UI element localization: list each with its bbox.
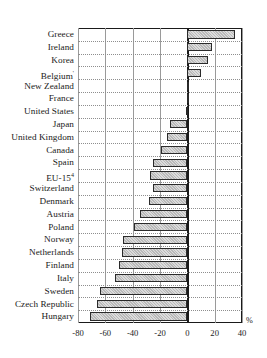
- footnote-marker: 4: [71, 172, 74, 178]
- gridline-horizontal: [78, 118, 242, 119]
- gridline-horizontal: [78, 233, 242, 234]
- bar: [153, 184, 187, 192]
- gridline-horizontal: [78, 310, 242, 311]
- bar: [123, 236, 187, 244]
- bar: [150, 171, 187, 179]
- gridline-horizontal: [78, 297, 242, 298]
- gridline-vertical: [215, 28, 216, 323]
- bar: [122, 248, 188, 256]
- bar-chart: GreeceIrelandKoreaBelgium'New ZealandFra…: [0, 0, 267, 358]
- category-label: Hungary: [0, 311, 74, 321]
- gridline-horizontal: [78, 156, 242, 157]
- x-axis-label: %: [246, 316, 253, 325]
- gridline-horizontal: [78, 285, 242, 286]
- x-tick-label: 20: [202, 328, 228, 338]
- category-label: Denmark: [0, 196, 74, 206]
- category-label: Sweden: [0, 286, 74, 296]
- gridline-vertical: [78, 28, 79, 323]
- category-label: Austria: [0, 209, 74, 219]
- bar: [186, 107, 188, 115]
- bar: [187, 69, 201, 77]
- x-tick-label: -20: [147, 328, 173, 338]
- bar: [153, 159, 187, 167]
- gridline-horizontal: [78, 92, 242, 93]
- category-label: EU-154: [0, 170, 74, 183]
- bar: [187, 56, 208, 64]
- bar: [140, 210, 188, 218]
- x-tick-label: 0: [174, 328, 200, 338]
- category-label: Italy: [0, 273, 74, 283]
- gridline-horizontal: [78, 131, 242, 132]
- bar: [187, 94, 189, 102]
- gridline-horizontal: [78, 195, 242, 196]
- bar: [90, 312, 187, 320]
- bar: [187, 43, 212, 51]
- bar: [170, 120, 188, 128]
- gridline-horizontal: [78, 54, 242, 55]
- bar: [161, 146, 187, 154]
- gridline-horizontal: [78, 182, 242, 183]
- x-tick-label: -60: [92, 328, 118, 338]
- gridline-horizontal: [78, 246, 242, 247]
- x-tick-label: 40: [229, 328, 255, 338]
- bar: [187, 30, 235, 38]
- bar: [100, 287, 187, 295]
- category-label: New Zealand: [0, 81, 74, 91]
- bar: [134, 223, 187, 231]
- footnote-marker: ': [73, 70, 74, 76]
- gridline-horizontal: [78, 79, 242, 80]
- category-label: Norway: [0, 234, 74, 244]
- category-label: United Kingdom: [0, 132, 74, 142]
- x-tick-label: -40: [120, 328, 146, 338]
- gridline-horizontal: [78, 208, 242, 209]
- category-label: Netherlands: [0, 247, 74, 257]
- category-label: Poland: [0, 222, 74, 232]
- category-label: Ireland: [0, 42, 74, 52]
- gridline-horizontal: [78, 259, 242, 260]
- gridline-vertical: [242, 28, 243, 323]
- gridline-horizontal: [78, 41, 242, 42]
- x-tick-label: -80: [65, 328, 91, 338]
- category-label: Japan: [0, 119, 74, 129]
- gridline-horizontal: [78, 143, 242, 144]
- category-label: France: [0, 93, 74, 103]
- gridline-vertical: [105, 28, 106, 323]
- bar: [167, 133, 188, 141]
- category-label: Belgium': [0, 68, 74, 81]
- category-label: Switzerland: [0, 183, 74, 193]
- bar: [149, 197, 187, 205]
- bar: [115, 274, 187, 282]
- category-label: Spain: [0, 157, 74, 167]
- gridline-horizontal: [78, 169, 242, 170]
- category-label: Czech Republic: [0, 299, 74, 309]
- gridline-horizontal: [78, 272, 242, 273]
- bar: [97, 300, 187, 308]
- gridline-horizontal: [78, 66, 242, 67]
- category-label: Finland: [0, 260, 74, 270]
- category-label: United States: [0, 106, 74, 116]
- category-label: Greece: [0, 29, 74, 39]
- gridline-horizontal: [78, 220, 242, 221]
- gridline-horizontal: [78, 105, 242, 106]
- bar: [187, 82, 189, 90]
- category-label: Korea: [0, 55, 74, 65]
- bar: [119, 261, 187, 269]
- category-label: Canada: [0, 145, 74, 155]
